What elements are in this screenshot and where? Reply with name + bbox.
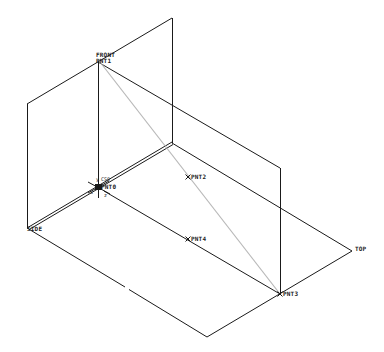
cs0-label: CS0 [101,176,110,182]
datum-axis-line[interactable] [100,62,280,294]
side-plane-label[interactable]: SIDE [27,225,42,232]
side-datum-plane[interactable] [27,18,173,229]
pnt0-label: PNT0 [101,183,116,190]
pnt3-label: PNT3 [283,290,298,297]
datum-point-pnt0[interactable]: PNT0 [101,183,116,190]
cad-graphics-viewport[interactable]: CS0 x y z PNT0 FRONT PNT1 PNT2 PNT4 PNT3 [0,0,384,352]
pnt1-label: PNT1 [96,57,111,64]
top-plane-label[interactable]: TOP [355,245,367,252]
datum-point-pnt1[interactable]: PNT1 [96,57,111,64]
datum-point-pnt2[interactable]: PNT2 [186,173,207,180]
cs-x-label: x [90,189,93,195]
pnt2-label: PNT2 [191,173,206,180]
cs-z-label: z [104,192,107,198]
pnt4-label: PNT4 [191,235,206,242]
cs-y-label: y [96,176,99,183]
